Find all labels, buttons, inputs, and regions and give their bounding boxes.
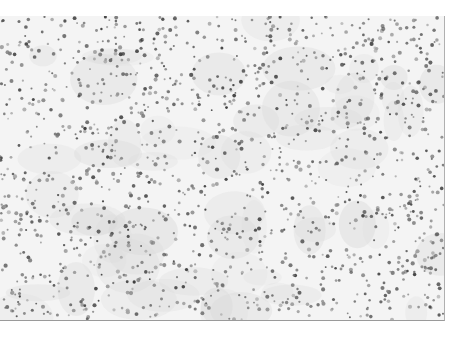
cell-nuclei-field [0,16,444,320]
micrograph-image [0,16,445,321]
